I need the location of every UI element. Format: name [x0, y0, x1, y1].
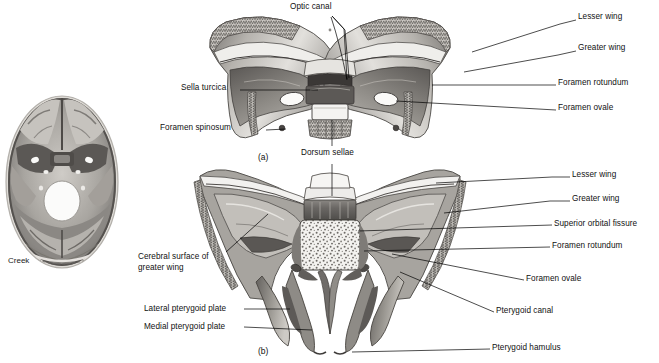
label-pterygoid-canal: Pterygoid canal — [496, 306, 553, 316]
label-greater-wing-a: Greater wing — [578, 43, 625, 53]
label-cerebral-surface-of-greater-wing: Cerebral surface of greater wing — [138, 252, 222, 273]
label-foramen-ovale-b: Foramen ovale — [526, 274, 581, 284]
label-lesser-wing-a: Lesser wing — [578, 12, 622, 22]
label-foramen-ovale-a: Foramen ovale — [558, 103, 613, 113]
label-medial-pterygoid-plate: Medial pterygoid plate — [144, 322, 225, 332]
label-sella-turcica: Sella turcica — [181, 83, 226, 93]
panel-a-sphenoid-superior — [210, 17, 450, 139]
label-foramen-spinosum: Foramen spinosum — [160, 123, 231, 133]
label-dorsum-sellae: Dorsum sellae — [301, 148, 354, 158]
label-lesser-wing-b: Lesser wing — [572, 170, 616, 180]
artist-signature: Creek — [8, 256, 29, 265]
label-optic-canal: Optic canal — [290, 2, 332, 12]
panel-b-sphenoid-posterior — [194, 170, 466, 354]
label-foramen-rotundum-b: Foramen rotundum — [552, 241, 622, 251]
figure-canvas: Optic canal Lesser wing Greater wing For… — [0, 0, 659, 363]
illustration-artwork — [0, 0, 659, 363]
label-foramen-rotundum-a: Foramen rotundum — [558, 78, 628, 88]
axial-skull-base-image — [6, 96, 118, 268]
panel-label-a: (a) — [258, 152, 268, 162]
label-pterygoid-hamulus: Pterygoid hamulus — [492, 343, 561, 353]
label-lateral-pterygoid-plate: Lateral pterygoid plate — [144, 304, 226, 314]
label-superior-orbital-fissure: Superior orbital fissure — [554, 219, 637, 229]
panel-label-b: (b) — [258, 346, 268, 356]
label-greater-wing-b: Greater wing — [572, 194, 619, 204]
